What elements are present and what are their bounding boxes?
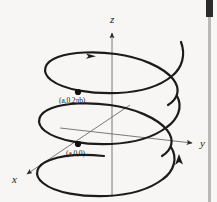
helix-turn-middle-visible — [39, 96, 179, 156]
curve-direction-arrows — [86, 54, 183, 165]
direction-arrow-bottom — [175, 154, 183, 165]
lower-point-label: (a,0,0) — [66, 150, 85, 158]
helix-curve-group — [37, 42, 183, 196]
scrollbar-thumb[interactable] — [206, 0, 213, 17]
helix-turn-bottom — [37, 147, 174, 196]
upper-point-dot — [75, 89, 81, 95]
upper-point-label: (a,0,2πb) — [59, 97, 85, 105]
y-axis-label: y — [200, 138, 205, 149]
lower-point-dot — [75, 141, 81, 147]
helix-figure: z y x (a,0,2πb) (a,0,0) — [0, 0, 217, 202]
z-axis-label: z — [110, 14, 114, 25]
axis-group — [27, 33, 192, 197]
helix-diagram-svg — [0, 0, 217, 202]
x-axis-label: x — [12, 174, 17, 185]
scrollbar-track[interactable] — [208, 0, 211, 202]
direction-arrow-top — [86, 54, 96, 59]
